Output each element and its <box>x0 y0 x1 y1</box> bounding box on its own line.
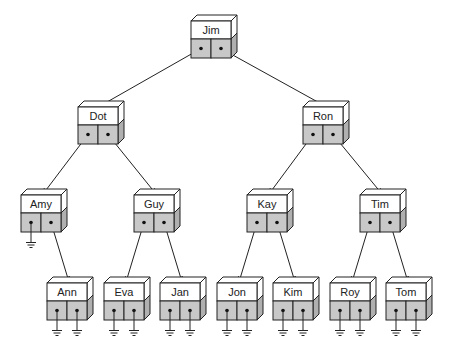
tree-node-ann: Ann <box>47 277 93 336</box>
node-label: Dot <box>89 110 106 122</box>
node-label: Ron <box>313 110 333 122</box>
right-pointer-dot <box>275 221 279 225</box>
tree-node-jon: Jon <box>217 277 263 336</box>
tree-node-kay: Kay <box>247 189 293 232</box>
node-label: Tim <box>371 198 389 210</box>
node-top-face <box>160 277 206 283</box>
right-pointer-dot <box>331 133 335 137</box>
tree-node-amy: Amy <box>21 189 67 248</box>
right-pointer-dot <box>49 221 53 225</box>
node-top-face <box>273 277 319 283</box>
tree-node-tom: Tom <box>386 277 432 336</box>
binary-tree-diagram: JimDotRonAmyGuyKayTimAnnEvaJanJonKimRoyT… <box>0 0 449 364</box>
node-label: Ann <box>57 286 77 298</box>
node-label: Amy <box>30 198 53 210</box>
tree-node-kim: Kim <box>273 277 319 336</box>
node-top-face <box>303 101 349 107</box>
node-top-face <box>247 189 293 195</box>
node-label: Jim <box>202 24 219 36</box>
left-pointer-dot <box>142 221 146 225</box>
node-label: Roy <box>340 286 360 298</box>
node-top-face <box>360 189 406 195</box>
left-pointer-dot <box>255 221 259 225</box>
right-pointer-dot <box>219 47 223 51</box>
node-top-face <box>191 15 237 21</box>
left-pointer-dot <box>86 133 90 137</box>
nodes-layer: JimDotRonAmyGuyKayTimAnnEvaJanJonKimRoyT… <box>21 15 432 336</box>
node-label: Kim <box>284 286 303 298</box>
node-label: Guy <box>144 198 165 210</box>
right-pointer-dot <box>162 221 166 225</box>
node-top-face <box>386 277 432 283</box>
right-pointer-dot <box>106 133 110 137</box>
left-pointer-dot <box>368 221 372 225</box>
tree-node-eva: Eva <box>104 277 150 336</box>
node-top-face <box>47 277 93 283</box>
node-label: Jan <box>171 286 189 298</box>
left-pointer-dot <box>311 133 315 137</box>
node-top-face <box>330 277 376 283</box>
node-label: Kay <box>258 198 277 210</box>
tree-node-ron: Ron <box>303 101 349 144</box>
edge-jim-ron <box>221 49 325 107</box>
tree-node-tim: Tim <box>360 189 406 232</box>
tree-node-dot: Dot <box>78 101 124 144</box>
node-label: Jon <box>228 286 246 298</box>
node-label: Tom <box>396 286 417 298</box>
node-top-face <box>78 101 124 107</box>
tree-node-guy: Guy <box>134 189 180 232</box>
tree-node-jan: Jan <box>160 277 206 336</box>
node-top-face <box>217 277 263 283</box>
left-pointer-dot <box>199 47 203 51</box>
node-top-face <box>21 189 67 195</box>
node-label: Eva <box>115 286 135 298</box>
node-top-face <box>104 277 150 283</box>
right-pointer-dot <box>388 221 392 225</box>
edges-layer <box>43 49 408 283</box>
tree-node-jim: Jim <box>191 15 237 58</box>
tree-node-roy: Roy <box>330 277 376 336</box>
node-top-face <box>134 189 180 195</box>
edge-jim-dot <box>100 49 201 107</box>
